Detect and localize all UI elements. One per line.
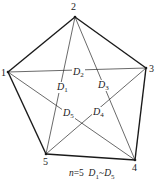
caption-range-end: D <box>104 168 111 178</box>
edge-3-4 <box>135 68 146 160</box>
vertex-labels-group: 12345 <box>1 1 154 173</box>
pentagon-diagram: 12345 D1D2D3D4D5 <box>0 0 165 185</box>
caption-equals: =5 <box>74 168 84 178</box>
caption-range-end-sub: 5 <box>111 173 115 181</box>
vertex-label-2: 2 <box>71 1 76 12</box>
vertex-dot-4 <box>134 159 137 162</box>
diagonals-group <box>8 17 146 160</box>
figure-caption: n=5 D1~D5 <box>69 168 115 181</box>
vertex-dot-3 <box>145 67 148 70</box>
vertex-label-1: 1 <box>1 67 6 78</box>
edge-5-1 <box>8 72 46 154</box>
edge-4-5 <box>46 154 135 160</box>
diagonal-labels-group: D1D2D3D4D5 <box>56 66 110 120</box>
vertex-label-5: 5 <box>43 156 48 167</box>
vertex-label-3: 3 <box>149 63 154 74</box>
vertex-dot-5 <box>45 153 48 156</box>
vertex-dot-1 <box>7 71 10 74</box>
pentagon-edges-group <box>8 17 146 160</box>
vertex-label-4: 4 <box>132 162 137 173</box>
vertex-dot-2 <box>74 16 77 19</box>
